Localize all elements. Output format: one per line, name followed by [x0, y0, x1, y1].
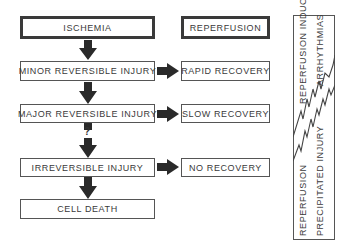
minor-reversible-injury-box: MINOR REVERSIBLE INJURY: [20, 61, 155, 81]
right-arrow-icon: [157, 63, 179, 79]
right-arrow-icon: [157, 159, 179, 175]
slow-recovery-label: SLOW RECOVERY: [182, 109, 269, 119]
no-recovery-box: NO RECOVERY: [181, 158, 270, 177]
reperfusion-label: REPERFUSION: [190, 23, 262, 33]
down-arrow-icon: [78, 177, 98, 199]
uncertain-transition-marker: ?: [84, 126, 90, 137]
slow-recovery-box: SLOW RECOVERY: [181, 104, 270, 123]
cell-death-label: CELL DEATH: [57, 204, 118, 214]
down-arrow-icon: [78, 138, 98, 158]
ischemia-label: ISCHEMIA: [63, 23, 111, 33]
reperfusion-box: REPERFUSION: [181, 16, 270, 39]
irreversible-injury-box: IRREVERSIBLE INJURY: [20, 158, 155, 177]
rapid-recovery-box: RAPID RECOVERY: [181, 61, 270, 81]
reperfusion-induced-label: REPERFUSION INDUCED: [298, 0, 308, 104]
arrhythmias-label: ARRHYTHMIAS: [315, 14, 325, 86]
rapid-recovery-label: RAPID RECOVERY: [181, 66, 270, 76]
ischemia-box: ISCHEMIA: [20, 16, 155, 39]
irreversible-injury-label: IRREVERSIBLE INJURY: [32, 163, 144, 173]
cell-death-box: CELL DEATH: [20, 199, 155, 219]
precipitated-injury-label: PRECIPITATED INJURY: [315, 126, 325, 236]
major-reversible-injury-label: MAJOR REVERSIBLE INJURY: [18, 109, 157, 119]
reperfusion-lower-label: REPERFUSION: [298, 164, 308, 236]
no-recovery-label: NO RECOVERY: [189, 163, 262, 173]
right-arrow-icon: [157, 106, 179, 122]
major-reversible-injury-box: MAJOR REVERSIBLE INJURY: [20, 104, 155, 123]
down-arrow-icon: [78, 82, 98, 104]
down-arrow-icon: [78, 40, 98, 60]
minor-reversible-injury-label: MINOR REVERSIBLE INJURY: [19, 66, 157, 76]
